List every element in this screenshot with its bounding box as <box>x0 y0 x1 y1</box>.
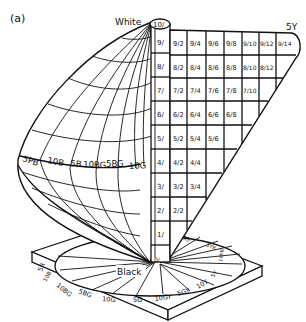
svg-text:8/: 8/ <box>157 63 164 71</box>
svg-text:4/2: 4/2 <box>173 159 184 167</box>
svg-text:6/8: 6/8 <box>226 111 237 119</box>
black-pole: Black <box>116 265 146 277</box>
svg-text:8/10: 8/10 <box>243 64 257 71</box>
svg-text:6/6: 6/6 <box>208 111 219 119</box>
svg-text:4/4: 4/4 <box>190 159 201 167</box>
svg-text:7/2: 7/2 <box>173 87 184 95</box>
svg-text:9/8: 9/8 <box>226 40 237 48</box>
svg-text:5/6: 5/6 <box>208 135 219 143</box>
svg-text:5B: 5B <box>70 158 82 169</box>
svg-text:9/6: 9/6 <box>208 40 219 48</box>
svg-text:9/4: 9/4 <box>190 40 201 48</box>
svg-text:5BG: 5BG <box>106 159 124 169</box>
svg-text:8/8: 8/8 <box>226 64 237 72</box>
left-lobe-blue-green <box>18 22 156 262</box>
hue-5y-label: 5Y <box>286 22 298 32</box>
svg-text:4/: 4/ <box>157 159 164 167</box>
svg-text:8/2: 8/2 <box>173 64 184 72</box>
svg-text:7/10: 7/10 <box>243 87 257 94</box>
svg-text:1/: 1/ <box>157 231 164 239</box>
panel-label: (a) <box>10 12 25 25</box>
white-pole-label: White <box>115 17 142 27</box>
svg-text:3/2: 3/2 <box>173 183 184 191</box>
svg-text:6/4: 6/4 <box>190 111 201 119</box>
svg-text:0/: 0/ <box>154 256 161 263</box>
svg-text:8/6: 8/6 <box>208 64 219 72</box>
svg-text:7/8: 7/8 <box>226 87 237 95</box>
svg-text:9/: 9/ <box>157 39 164 47</box>
munsell-color-solid-diagram: (a) 5R 10B <box>0 0 306 322</box>
svg-text:10G: 10G <box>129 160 147 171</box>
svg-text:7/6: 7/6 <box>208 87 219 95</box>
svg-text:5/: 5/ <box>157 135 164 143</box>
svg-text:10BG: 10BG <box>55 281 74 298</box>
svg-text:2/: 2/ <box>157 207 164 215</box>
svg-text:9/12: 9/12 <box>260 40 274 47</box>
svg-text:5/2: 5/2 <box>173 135 184 143</box>
svg-text:10BG: 10BG <box>83 159 107 170</box>
svg-text:7/4: 7/4 <box>190 87 201 95</box>
svg-text:10G: 10G <box>102 295 116 304</box>
svg-text:5G: 5G <box>133 296 142 304</box>
svg-text:10/: 10/ <box>153 21 165 29</box>
svg-text:6/: 6/ <box>157 111 164 119</box>
svg-text:7/: 7/ <box>157 87 164 95</box>
svg-text:9/14: 9/14 <box>278 40 292 47</box>
svg-text:6/2: 6/2 <box>173 111 184 119</box>
svg-text:9/2: 9/2 <box>173 40 184 48</box>
svg-text:3/: 3/ <box>157 183 164 191</box>
svg-text:2/2: 2/2 <box>173 207 184 215</box>
svg-text:8/4: 8/4 <box>190 64 201 72</box>
svg-text:8/12: 8/12 <box>260 64 274 71</box>
svg-text:5/4: 5/4 <box>190 135 201 143</box>
svg-text:3/4: 3/4 <box>190 183 201 191</box>
black-pole-label: Black <box>117 267 142 277</box>
svg-text:9/10: 9/10 <box>243 40 257 47</box>
